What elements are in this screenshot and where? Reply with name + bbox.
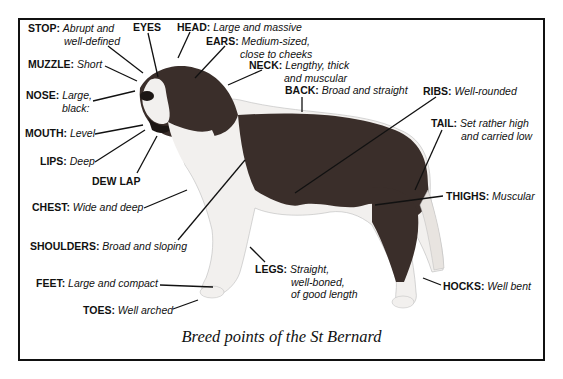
label-lips: LIPS: Deep — [40, 155, 95, 168]
label-shoulders: SHOULDERS: Broad and sloping — [30, 240, 187, 253]
label-back: BACK: Broad and straight — [285, 84, 408, 97]
label-nose: NOSE: Large, black: — [26, 89, 92, 114]
label-muzzle: MUZZLE: Short — [28, 58, 102, 71]
label-feet: FEET: Large and compact — [36, 277, 158, 290]
label-eyes: EYES — [133, 21, 161, 34]
label-ribs: RIBS: Well-rounded — [423, 85, 517, 98]
label-neck: NECK: Lengthy, thick and muscular — [249, 59, 349, 84]
diagram-caption: Breed points of the St Bernard — [0, 327, 563, 347]
label-tail: TAIL: Set rather high and carried low — [431, 117, 532, 142]
label-mouth: MOUTH: Level — [25, 127, 95, 140]
label-dew-lap: DEW LAP — [92, 175, 140, 188]
label-head: HEAD: Large and massive — [177, 21, 302, 34]
label-stop: STOP: Abrupt and well-defined — [28, 22, 120, 47]
label-chest: CHEST: Wide and deep — [32, 201, 143, 214]
label-legs: LEGS: Straight, well-boned, of good leng… — [255, 263, 358, 301]
label-ears: EARS: Medium-sized, close to cheeks — [206, 35, 312, 60]
label-toes: TOES: Well arched — [83, 304, 173, 317]
label-hocks: HOCKS: Well bent — [443, 280, 531, 293]
label-thighs: THIGHS: Muscular — [446, 190, 535, 203]
